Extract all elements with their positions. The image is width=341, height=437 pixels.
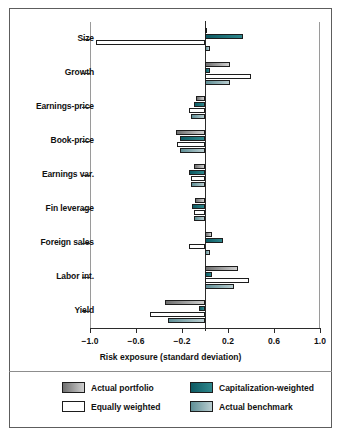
y-axis-tick (82, 311, 90, 312)
x-axis-tick-label: −0.6 (128, 336, 145, 346)
bar (191, 176, 205, 181)
bar (192, 204, 205, 209)
legend-swatch-actual-benchmark (190, 401, 213, 412)
bar-group (90, 266, 320, 289)
bar (177, 142, 205, 147)
x-axis-line (90, 328, 320, 329)
bar (189, 244, 205, 249)
bar (194, 102, 206, 107)
bar-group (90, 62, 320, 85)
y-axis-tick (82, 73, 90, 74)
x-axis-tick-label: 0.2 (222, 336, 234, 346)
bar (191, 182, 205, 187)
legend-label-capitalization-weighted: Capitalization-weighted (219, 383, 314, 393)
bar-group (90, 130, 320, 153)
legend-label-equally-weighted: Equally weighted (91, 402, 160, 412)
bar (205, 28, 207, 33)
x-axis-tick (228, 328, 229, 333)
figure: Risk exposure (standard deviation) SizeG… (0, 0, 341, 437)
x-axis-tick (182, 328, 183, 333)
legend-swatch-capitalization-weighted (190, 382, 213, 393)
bar (205, 232, 212, 237)
bar (165, 300, 205, 305)
y-axis-tick (82, 277, 90, 278)
bar (196, 96, 205, 101)
y-axis-tick (82, 39, 90, 40)
bar (205, 46, 210, 51)
x-axis-tick (136, 328, 137, 333)
bar (205, 284, 234, 289)
legend-swatch-equally-weighted (62, 401, 85, 412)
bar (195, 198, 205, 203)
x-axis-tick (274, 328, 275, 333)
y-axis-category-label: Labor int. (56, 271, 94, 281)
bar (180, 136, 205, 141)
bar (205, 250, 210, 255)
y-axis-category-label: Growth (65, 67, 94, 77)
legend-divider (9, 371, 332, 372)
bar (168, 318, 205, 323)
y-axis-category-label: Earnings var. (42, 169, 94, 179)
y-axis-tick (82, 175, 90, 176)
legend-label-actual-portfolio: Actual portfolio (91, 383, 154, 393)
bar (205, 278, 249, 283)
y-axis-category-label: Size (77, 33, 94, 43)
legend-label-actual-benchmark: Actual benchmark (219, 402, 293, 412)
bar-group (90, 164, 320, 187)
bar (205, 238, 223, 243)
bar-group (90, 96, 320, 119)
x-axis-tick-label: 1.0 (314, 336, 326, 346)
bar-group (90, 28, 320, 51)
x-axis-tick-label: −1.0 (82, 336, 99, 346)
bar (194, 216, 206, 221)
y-axis-category-label: Book-price (51, 135, 94, 145)
bar (180, 148, 205, 153)
bar (205, 266, 238, 271)
bar (176, 130, 205, 135)
bar (194, 164, 206, 169)
legend-swatch-actual-portfolio (62, 382, 85, 393)
bar (194, 210, 206, 215)
bar (189, 108, 205, 113)
bar (199, 306, 205, 311)
bar (205, 34, 243, 39)
bar (205, 62, 230, 67)
y-axis-category-label: Yield (75, 305, 95, 315)
legend-item-actual-portfolio: Actual portfolio (62, 382, 154, 393)
y-axis-tick (82, 141, 90, 142)
bar (205, 272, 212, 277)
bar-group (90, 232, 320, 255)
bar (205, 74, 251, 79)
y-axis-tick (82, 209, 90, 210)
y-axis-category-label: Foreign sales (41, 237, 95, 247)
legend-item-equally-weighted: Equally weighted (62, 401, 160, 412)
y-axis-tick (82, 243, 90, 244)
y-axis-category-label: Fin leverage (46, 203, 94, 213)
legend-item-capitalization-weighted: Capitalization-weighted (190, 382, 314, 393)
bar-group (90, 198, 320, 221)
x-axis-tick (90, 328, 91, 333)
bars-container (90, 22, 320, 328)
x-axis-tick (320, 328, 321, 333)
chart-legend: Actual portfolio Equally weighted Capita… (20, 380, 320, 420)
legend-item-actual-benchmark: Actual benchmark (190, 401, 293, 412)
bar (189, 170, 205, 175)
bar (191, 114, 205, 119)
y-axis-tick (82, 107, 90, 108)
x-axis-tick-label: −0.2 (174, 336, 191, 346)
y-axis-category-label: Earnings-price (36, 101, 94, 111)
x-axis-tick-label: 0.6 (268, 336, 280, 346)
bar-group (90, 300, 320, 323)
bar (150, 312, 205, 317)
x-axis-title: Risk exposure (standard deviation) (0, 352, 341, 362)
bar (96, 40, 205, 45)
bar (205, 80, 230, 85)
bar (205, 68, 210, 73)
